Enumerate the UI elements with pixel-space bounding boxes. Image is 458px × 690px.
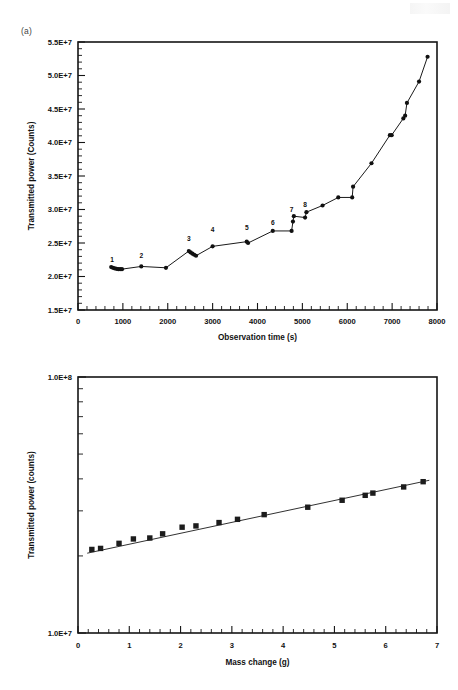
point-annotation-a: 4 — [211, 226, 215, 233]
x-ticklabel-b: 2 — [178, 641, 182, 650]
y-ticklabel-a: 2.0E+7 — [48, 272, 72, 281]
data-point-a — [291, 219, 295, 223]
point-annotation-a: 5 — [245, 224, 249, 231]
point-annotation-a: 1 — [110, 256, 114, 263]
x-ticklabel-b: 4 — [281, 641, 286, 650]
data-point-a — [246, 241, 250, 245]
y-ticklabel-a: 4.5E+7 — [48, 105, 72, 114]
data-point-a — [403, 114, 407, 118]
data-point-a — [425, 55, 429, 59]
data-point-a — [271, 229, 275, 233]
panel-a-plot: 1.5E+72.0E+72.5E+73.0E+73.5E+74.0E+74.5E… — [0, 0, 458, 345]
x-ticklabel-a: 1000 — [114, 317, 131, 326]
panel-b-plot: 1.0E+71.0E+801234567Mass change (g)Trans… — [0, 345, 458, 690]
point-annotation-a: 7 — [290, 206, 294, 213]
x-ticklabel-b: 7 — [435, 641, 439, 650]
point-annotation-a: 8 — [303, 201, 307, 208]
series-line-a — [111, 57, 427, 269]
data-point-b — [147, 535, 152, 540]
panel-a: (a) 1.5E+72.0E+72.5E+73.0E+73.5E+74.0E+7… — [0, 0, 458, 345]
data-point-a — [369, 161, 373, 165]
y-ticklabel-a: 4.0E+7 — [48, 138, 72, 147]
x-ticklabel-b: 5 — [332, 641, 337, 650]
x-ticklabel-a: 3000 — [204, 317, 221, 326]
data-point-a — [350, 195, 354, 199]
x-axis-title-b: Mass change (g) — [225, 658, 289, 667]
y-ticklabel-b: 1.0E+7 — [48, 629, 72, 638]
data-point-a — [405, 101, 409, 105]
y-ticklabel-a: 1.5E+7 — [48, 306, 72, 315]
data-point-b — [339, 498, 344, 503]
x-ticklabel-a: 4000 — [249, 317, 266, 326]
data-point-b — [363, 493, 368, 498]
x-ticklabel-a: 8000 — [429, 317, 446, 326]
data-point-b — [420, 479, 425, 484]
x-ticklabel-a: 0 — [76, 317, 80, 326]
y-ticklabel-a: 2.5E+7 — [48, 239, 72, 248]
x-ticklabel-a: 6000 — [339, 317, 356, 326]
x-ticklabel-b: 3 — [230, 641, 234, 650]
data-point-b — [261, 512, 266, 517]
data-point-a — [120, 267, 124, 271]
y-ticklabel-a: 5.0E+7 — [48, 71, 72, 80]
data-point-b — [235, 517, 240, 522]
data-point-a — [390, 133, 394, 137]
y-ticklabel-a: 3.0E+7 — [48, 205, 72, 214]
data-point-b — [89, 547, 94, 552]
panel-b: (b) 1.0E+71.0E+801234567Mass change (g)T… — [0, 345, 458, 690]
y-ticklabel-a: 3.5E+7 — [48, 172, 72, 181]
data-point-b — [305, 505, 310, 510]
data-point-a — [292, 214, 296, 218]
data-point-b — [193, 523, 198, 528]
point-annotation-a: 3 — [187, 235, 191, 242]
y-axis-title-a: Transmitted power (Counts) — [27, 121, 36, 230]
data-point-a — [303, 215, 307, 219]
data-point-a — [139, 264, 143, 268]
data-point-b — [370, 490, 375, 495]
data-point-b — [179, 524, 184, 529]
data-point-b — [401, 484, 406, 489]
trend-line-b — [87, 480, 429, 553]
y-ticklabel-a: 5.5E+7 — [48, 38, 72, 47]
data-point-a — [164, 266, 168, 270]
x-ticklabel-a: 7000 — [384, 317, 401, 326]
data-point-a — [351, 185, 355, 189]
data-point-a — [417, 79, 421, 83]
plot-frame-a — [78, 42, 437, 310]
data-point-b — [160, 531, 165, 536]
x-ticklabel-b: 1 — [127, 641, 132, 650]
data-point-a — [194, 254, 198, 258]
data-point-b — [216, 520, 221, 525]
x-ticklabel-a: 2000 — [159, 317, 176, 326]
y-ticklabel-b: 1.0E+8 — [48, 373, 72, 382]
x-ticklabel-b: 0 — [76, 641, 80, 650]
plot-frame-b — [78, 377, 437, 633]
x-ticklabel-b: 6 — [384, 641, 388, 650]
x-ticklabel-a: 5000 — [294, 317, 311, 326]
data-point-a — [290, 229, 294, 233]
data-point-a — [336, 195, 340, 199]
point-annotation-a: 2 — [139, 252, 143, 259]
data-point-a — [211, 244, 215, 248]
figure-container: (a) 1.5E+72.0E+72.5E+73.0E+73.5E+74.0E+7… — [0, 0, 458, 690]
data-point-b — [98, 546, 103, 551]
x-axis-title-a: Observation time (s) — [218, 333, 297, 342]
data-point-a — [320, 203, 324, 207]
data-point-b — [131, 536, 136, 541]
data-point-a — [304, 210, 308, 214]
point-annotation-a: 6 — [271, 219, 275, 226]
y-axis-title-b: Transmitted power (counts) — [27, 451, 36, 559]
data-point-b — [116, 541, 121, 546]
